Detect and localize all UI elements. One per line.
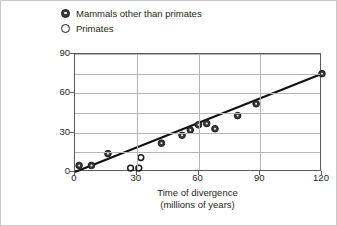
series-primates	[128, 155, 144, 171]
gridline-horizontal	[75, 54, 320, 55]
series-mammals	[76, 70, 325, 168]
y-tick-label: 60	[59, 88, 70, 98]
y-axis-tick-labels: 0306090	[47, 53, 70, 171]
data-point-highlight	[181, 134, 183, 136]
gridline-horizontal	[75, 133, 320, 134]
legend-item-mammals: Mammals other than primates	[61, 6, 202, 20]
plot-area	[74, 53, 321, 171]
y-tick-mark	[70, 92, 74, 93]
open-circle-icon	[61, 24, 70, 33]
x-tick-mark	[136, 171, 137, 175]
data-point-highlight	[321, 73, 323, 75]
data-point-highlight	[237, 115, 239, 117]
data-point-highlight	[78, 164, 80, 166]
y-tick-label: 30	[59, 127, 70, 137]
chart-legend: Mammals other than primates Primates	[61, 6, 202, 36]
data-point-open	[128, 165, 134, 171]
gridline-horizontal	[75, 93, 320, 94]
gridline-vertical	[137, 54, 138, 170]
x-axis-title: Time of divergence (millions of years)	[74, 187, 321, 211]
y-tick-mark	[70, 53, 74, 54]
x-tick-mark	[259, 171, 260, 175]
gridline-vertical	[199, 54, 200, 170]
y-tick-label: 90	[59, 48, 70, 58]
filled-circle-icon	[61, 9, 70, 18]
x-axis-title-line2: (millions of years)	[74, 199, 321, 211]
x-tick-mark	[198, 171, 199, 175]
gridline-horizontal	[75, 152, 320, 153]
x-tick-mark	[321, 171, 322, 175]
data-point-highlight	[206, 123, 208, 125]
chart-frame: Mammals other than primates Primates Num…	[0, 0, 337, 226]
data-point-highlight	[189, 129, 191, 131]
legend-label-mammals: Mammals other than primates	[76, 8, 202, 19]
data-point-highlight	[91, 164, 93, 166]
data-point-highlight	[214, 128, 216, 130]
x-axis-title-line1: Time of divergence	[74, 187, 321, 199]
gridline-horizontal	[75, 113, 320, 114]
y-tick-mark	[70, 132, 74, 133]
x-tick-mark	[74, 171, 75, 175]
gridline-horizontal	[75, 74, 320, 75]
data-point-highlight	[255, 103, 257, 105]
data-point-open	[138, 155, 144, 161]
data-point-highlight	[161, 142, 163, 144]
gridline-vertical	[260, 54, 261, 170]
legend-label-primates: Primates	[76, 23, 113, 34]
legend-item-primates: Primates	[61, 21, 202, 35]
